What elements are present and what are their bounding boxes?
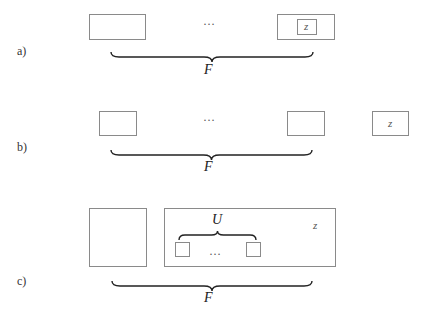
panel-a-F-brace-icon <box>111 52 313 62</box>
panel-b-last-box <box>287 111 325 136</box>
panel-b-z-box: z <box>372 111 409 136</box>
panel-b-ellipsis: … <box>203 110 216 125</box>
panel-c-U-label: U <box>212 212 222 228</box>
panel-b-label: b) <box>17 140 27 155</box>
panel-b-first-box <box>99 111 137 136</box>
panel-c-left-box <box>89 208 147 267</box>
panel-c-small-box-first <box>175 242 190 257</box>
panel-a-z-label: z <box>304 20 308 32</box>
panel-a-last-box: z <box>277 14 335 40</box>
panel-c-large-box: U … z <box>164 208 336 267</box>
panel-b-z-label: z <box>388 117 392 129</box>
panel-c-ellipsis: … <box>209 244 222 259</box>
panel-b-F-label: F <box>204 159 213 175</box>
panel-c-F-label: F <box>204 290 213 306</box>
panel-a-ellipsis: … <box>203 14 216 29</box>
panel-a-label: a) <box>17 44 26 59</box>
panel-c-z-label: z <box>313 219 317 231</box>
panel-c-label: c) <box>17 274 26 289</box>
panel-a-z-box: z <box>297 19 317 35</box>
panel-c-small-box-last <box>246 242 261 257</box>
panel-a-first-box <box>89 14 146 40</box>
panel-a-F-label: F <box>204 62 213 78</box>
panel-c-U-brace-icon <box>179 231 256 240</box>
